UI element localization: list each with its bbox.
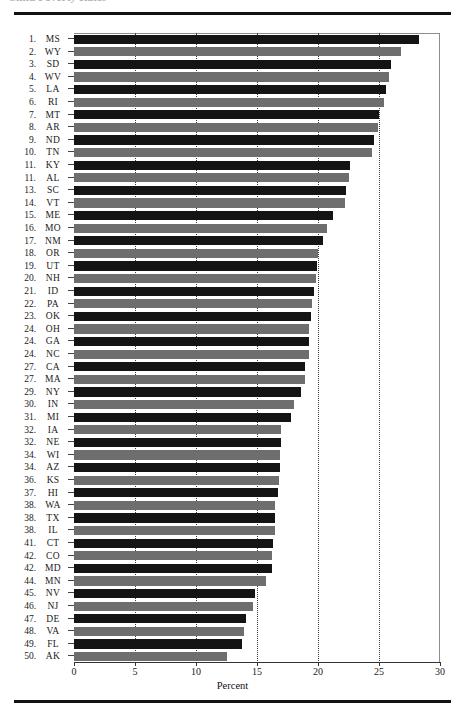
row-rank: 5.	[6, 83, 36, 96]
x-tick-label-25: 25	[359, 666, 399, 677]
row-rank: 30.	[6, 398, 36, 411]
row-state-label: FL	[40, 638, 66, 651]
row-state-label: MA	[40, 373, 66, 386]
row-state-label: PA	[40, 298, 66, 311]
bar	[74, 425, 281, 434]
row-state-label: MI	[40, 411, 66, 424]
row-state-label: MO	[40, 222, 66, 235]
bar	[74, 224, 327, 233]
row-state-label: ME	[40, 209, 66, 222]
bar	[74, 476, 279, 485]
bar-row: 38.TX	[0, 512, 465, 525]
row-rank: 14.	[6, 197, 36, 210]
row-state-label: SC	[40, 184, 66, 197]
bar-row: 24.NC	[0, 348, 465, 361]
bar-row: 22.PA	[0, 298, 465, 311]
bar	[74, 299, 312, 308]
row-state-label: AZ	[40, 461, 66, 474]
row-state-label: IN	[40, 398, 66, 411]
row-state-label: GA	[40, 335, 66, 348]
row-rank: 19.	[6, 260, 36, 273]
bar-row: 18.OR	[0, 247, 465, 260]
row-state-label: RI	[40, 96, 66, 109]
row-rank: 48.	[6, 625, 36, 638]
bar	[74, 47, 401, 56]
row-state-label: ND	[40, 134, 66, 147]
bar-row: 49.FL	[0, 638, 465, 651]
bar	[74, 413, 291, 422]
row-rank: 47.	[6, 613, 36, 626]
row-rank: 49.	[6, 638, 36, 651]
row-state-label: LA	[40, 83, 66, 96]
row-rank: 31.	[6, 411, 36, 424]
row-rank: 8.	[6, 121, 36, 134]
x-tick-label-5: 5	[115, 666, 155, 677]
bar-row: 14.VT	[0, 197, 465, 210]
bar-row: 2.WY	[0, 46, 465, 59]
row-rank: 27.	[6, 361, 36, 374]
row-state-label: AR	[40, 121, 66, 134]
bar-row: 11.AL	[0, 172, 465, 185]
bar-row: 48.VA	[0, 625, 465, 638]
row-rank: 2.	[6, 46, 36, 59]
row-rank: 38.	[6, 524, 36, 537]
bar	[74, 564, 272, 573]
row-state-label: NE	[40, 436, 66, 449]
bar-row: 38.IL	[0, 524, 465, 537]
row-state-label: WV	[40, 71, 66, 84]
row-rank: 4.	[6, 71, 36, 84]
x-tick-label-20: 20	[298, 666, 338, 677]
row-rank: 13.	[6, 184, 36, 197]
row-rank: 24.	[6, 348, 36, 361]
bar	[74, 350, 309, 359]
bar-row: 5.LA	[0, 83, 465, 96]
bar-row: 27.MA	[0, 373, 465, 386]
row-rank: 24.	[6, 335, 36, 348]
row-rank: 32.	[6, 436, 36, 449]
x-tick-label-15: 15	[237, 666, 277, 677]
bar-row: 27.CA	[0, 361, 465, 374]
bar	[74, 198, 345, 207]
row-rank: 32.	[6, 424, 36, 437]
chart-page: Child Poverty Rates 1.MS2.WY3.SD4.WV5.LA…	[0, 0, 465, 710]
bar-row: 13.SC	[0, 184, 465, 197]
bar-row: 8.AR	[0, 121, 465, 134]
bar-row: 15.ME	[0, 209, 465, 222]
bar	[74, 287, 314, 296]
row-rank: 16.	[6, 222, 36, 235]
bar-row: 38.WA	[0, 499, 465, 512]
row-rank: 9.	[6, 134, 36, 147]
row-state-label: SD	[40, 58, 66, 71]
row-rank: 50.	[6, 650, 36, 663]
row-state-label: VA	[40, 625, 66, 638]
row-state-label: WA	[40, 499, 66, 512]
bar-row: 17.NM	[0, 235, 465, 248]
bar-row: 7.MT	[0, 109, 465, 122]
bar	[74, 186, 346, 195]
bar	[74, 375, 305, 384]
row-state-label: CO	[40, 550, 66, 563]
bar	[74, 324, 309, 333]
bar-row: 34.WI	[0, 449, 465, 462]
row-rank: 44.	[6, 575, 36, 588]
row-rank: 37.	[6, 487, 36, 500]
row-rank: 42.	[6, 550, 36, 563]
row-state-label: NJ	[40, 600, 66, 613]
row-rank: 1.	[6, 33, 36, 46]
row-rank: 46.	[6, 600, 36, 613]
bar-row: 24.GA	[0, 335, 465, 348]
bar	[74, 135, 374, 144]
row-state-label: AK	[40, 650, 66, 663]
row-state-label: NC	[40, 348, 66, 361]
bar-row: 32.IA	[0, 424, 465, 437]
bar	[74, 148, 372, 157]
row-state-label: NV	[40, 587, 66, 600]
bar	[74, 463, 280, 472]
row-state-label: AL	[40, 172, 66, 185]
x-tick-label-30: 30	[420, 666, 460, 677]
bar	[74, 501, 275, 510]
row-rank: 22.	[6, 298, 36, 311]
x-tick-label-0: 0	[54, 666, 94, 677]
row-rank: 42.	[6, 562, 36, 575]
bar-row: 20.NH	[0, 272, 465, 285]
